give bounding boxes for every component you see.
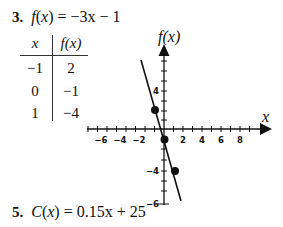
- y-tick-label: 4: [153, 86, 159, 96]
- function-graph: −6 −4 −2 2 4 6 8 4 −4 −6: [0, 0, 283, 227]
- problem-number: 5.: [12, 204, 23, 220]
- y-tick-label: −4: [146, 166, 159, 176]
- x-tick-label: −6: [94, 135, 107, 145]
- data-point: [171, 167, 179, 175]
- x-tick-label: 8: [237, 135, 243, 145]
- y-axis-arrow-icon: [159, 44, 170, 56]
- problem-5-heading: 5. C(x) = 0.15x + 25: [12, 203, 146, 221]
- x-tick-label: −2: [132, 135, 145, 145]
- y-axis: 4 −4 −6: [146, 44, 170, 209]
- x-tick-label: 2: [180, 135, 186, 145]
- function-name: C: [31, 203, 42, 220]
- data-point: [161, 136, 169, 144]
- x-axis: −6 −4 −2 2 4 6 8: [87, 123, 272, 145]
- x-tick-label: 6: [218, 135, 224, 145]
- x-axis-arrow-icon: [260, 123, 272, 135]
- x-tick-label: 4: [199, 135, 205, 145]
- y-tick-label: −6: [146, 199, 159, 209]
- function-rhs: = 0.15x + 25: [64, 203, 146, 220]
- data-point: [151, 106, 159, 114]
- x-tick-label: −4: [113, 135, 126, 145]
